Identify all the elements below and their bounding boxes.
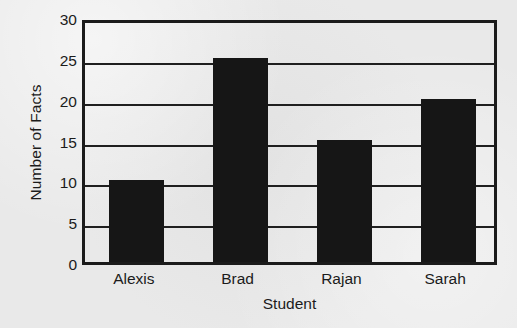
y-tick-label-15: 15: [52, 135, 77, 151]
y-tick-label-10: 10: [52, 176, 77, 192]
gridline: [85, 63, 494, 65]
y-tick-label-30: 30: [52, 12, 77, 28]
plot-inner: [85, 23, 494, 262]
bar-chart-figure: Number of Facts 051015202530 AlexisBradR…: [0, 0, 517, 328]
x-axis-tick-labels: AlexisBradRajanSarah: [82, 268, 497, 292]
y-axis-tick-labels: 051015202530: [52, 20, 77, 265]
x-tick-label-brad: Brad: [186, 268, 290, 290]
x-axis-title: Student: [82, 294, 497, 314]
bar-brad: [213, 58, 268, 262]
bar-sarah: [421, 99, 476, 262]
bar-rajan: [317, 140, 372, 263]
x-tick-label-sarah: Sarah: [393, 268, 497, 290]
bar-alexis: [109, 180, 164, 262]
plot-area: [82, 20, 497, 265]
y-tick-label-5: 5: [52, 216, 77, 232]
y-axis-title: Number of Facts: [25, 20, 47, 265]
y-tick-label-25: 25: [52, 53, 77, 69]
y-tick-label-0: 0: [52, 257, 77, 273]
x-tick-label-rajan: Rajan: [290, 268, 394, 290]
y-tick-label-20: 20: [52, 94, 77, 110]
x-tick-label-alexis: Alexis: [82, 268, 186, 290]
